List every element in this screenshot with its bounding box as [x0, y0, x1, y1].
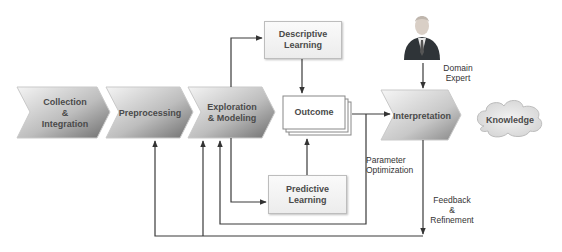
- feedback-line-3: Refinement: [425, 215, 479, 225]
- exploration-line-2: & Modeling: [207, 113, 257, 124]
- knowledge-label: Knowledge: [480, 106, 540, 134]
- descriptive-line-1: Descriptive: [279, 29, 328, 40]
- param-line-2: Optimization: [366, 165, 426, 175]
- domain-expert-label: Domain Expert: [436, 63, 480, 83]
- step-interpretation-label: Interpretation: [390, 93, 454, 139]
- predictive-line-1: Predictive: [286, 184, 329, 195]
- param-line-1: Parameter: [366, 155, 426, 165]
- parameter-optimization-label: Parameter Optimization: [366, 155, 426, 175]
- feedback-line-2: &: [425, 205, 479, 215]
- feedback-refinement-label: Feedback & Refinement: [425, 195, 479, 225]
- outcome-label: Outcome: [283, 96, 345, 129]
- domain-expert-line-1: Domain: [436, 63, 480, 73]
- exploration-line-1: Exploration: [207, 102, 257, 113]
- descriptive-learning-box: Descriptive Learning: [264, 21, 342, 59]
- preprocessing-line-1: Preprocessing: [119, 108, 182, 119]
- collection-line-1: Collection: [42, 97, 89, 108]
- feedback-line-1: Feedback: [425, 195, 479, 205]
- step-collection-label: Collection & Integration: [27, 90, 103, 136]
- collection-line-3: Integration: [42, 119, 89, 130]
- interpretation-line-1: Interpretation: [393, 111, 451, 122]
- step-preprocessing-label: Preprocessing: [114, 90, 186, 136]
- domain-expert-line-2: Expert: [436, 73, 480, 83]
- predictive-learning-box: Predictive Learning: [268, 175, 347, 214]
- predictive-line-2: Learning: [286, 195, 329, 206]
- descriptive-line-2: Learning: [279, 40, 328, 51]
- person-icon: [404, 16, 440, 60]
- collection-line-2: &: [42, 108, 89, 119]
- step-exploration-label: Exploration & Modeling: [196, 90, 268, 136]
